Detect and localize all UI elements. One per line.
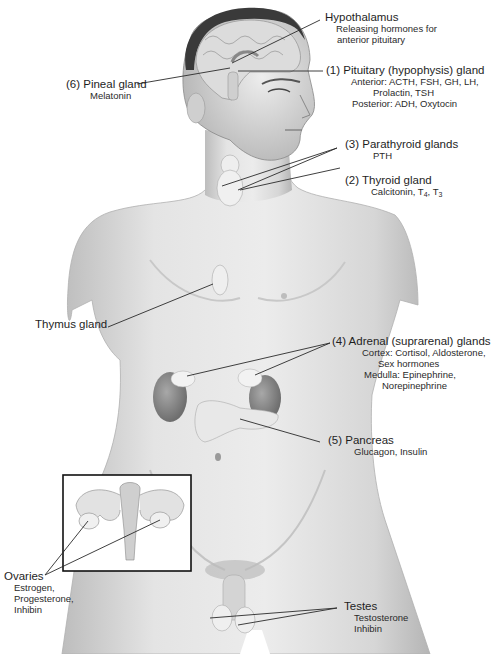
parathyroid-hormones: PTH [345, 151, 458, 162]
pineal-hormones: Melatonin [66, 91, 147, 102]
thymus-title: Thymus gland [35, 318, 107, 331]
ovary-inset [63, 475, 191, 571]
pituitary-posterior: Posterior: ADH, Oxytocin [326, 99, 485, 110]
left-adrenal [171, 371, 195, 387]
label-adrenal-glands: (4) Adrenal (suprarenal) glands Cortex: … [332, 335, 491, 392]
label-pineal-gland: (6) Pineal gland Melatonin [66, 78, 147, 102]
right-testis [235, 607, 255, 633]
label-testes: Testes Testosterone Inhibin [344, 600, 408, 635]
label-pituitary-gland: (1) Pituitary (hypophysis) gland Anterio… [326, 64, 485, 110]
label-pancreas: (5) Pancreas Glucagon, Insulin [328, 434, 427, 458]
thymus-gland-shape [212, 265, 228, 295]
label-parathyroid-glands: (3) Parathyroid glands PTH [345, 138, 458, 162]
right-adrenal [238, 369, 262, 387]
ovaries-hormone-inhibin: Inhibin [4, 605, 74, 616]
thyroid-hormones: Calcitonin, T4, T3 [345, 187, 442, 199]
label-thymus-gland: Thymus gland [35, 318, 107, 331]
testes-hormone-inhibin: Inhibin [344, 624, 408, 635]
parathyroid-title: (3) Parathyroid glands [345, 138, 458, 151]
hypothalamus-hormones-line2: anterior pituitary [325, 35, 437, 46]
adrenal-medulla-line2: Norepinephrine [332, 381, 491, 392]
pancreas-hormones: Glucagon, Insulin [328, 447, 427, 458]
head [183, 8, 315, 160]
label-thyroid-gland: (2) Thyroid gland Calcitonin, T4, T3 [345, 174, 442, 199]
body-silhouette [62, 160, 430, 654]
label-hypothalamus: Hypothalamus Releasing hormones for ante… [325, 11, 437, 46]
label-ovaries: Ovaries Estrogen, Progesterone, Inhibin [4, 570, 74, 616]
